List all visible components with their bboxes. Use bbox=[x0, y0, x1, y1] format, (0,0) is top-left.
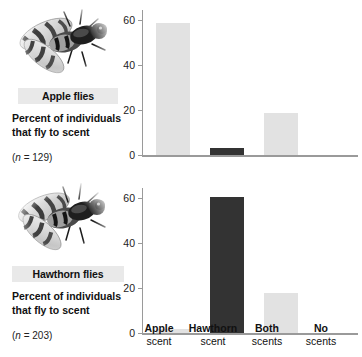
plot-area-hawthorn: 0 20 40 60 bbox=[142, 188, 358, 334]
hawthorn-fly-photo bbox=[10, 182, 114, 262]
bar-hawthorn-scent bbox=[210, 197, 244, 333]
x-axis-line-apple bbox=[142, 155, 358, 157]
y-tick-label-60-hawthorn: 60 bbox=[123, 192, 135, 204]
sample-size-hawthorn: (n = 203) bbox=[12, 330, 52, 341]
apple-fly-photo bbox=[10, 4, 114, 84]
y-tick-label-60-apple: 60 bbox=[123, 14, 135, 26]
y-tick-label-20-apple: 20 bbox=[123, 104, 135, 116]
y-axis-line-hawthorn bbox=[142, 188, 143, 334]
species-label-hawthorn: Hawthorn flies bbox=[12, 266, 124, 282]
y-tick-label-20-hawthorn: 20 bbox=[123, 282, 135, 294]
x-label-line1: No bbox=[286, 322, 356, 335]
species-label-apple: Apple flies bbox=[18, 88, 118, 104]
sample-size-value: = 203) bbox=[21, 330, 52, 341]
plot-area-apple: 0 20 40 60 bbox=[142, 10, 358, 156]
y-axis-title-apple: Percent of individuals that fly to scent bbox=[12, 112, 124, 139]
y-axis-title-hawthorn: Percent of individuals that fly to scent bbox=[12, 290, 124, 317]
bar-apple-scent bbox=[156, 23, 190, 155]
y-axis-line-apple bbox=[142, 10, 143, 156]
sample-size-apple: (n = 129) bbox=[12, 152, 52, 163]
plot-apple-flies: 0 20 40 60 bbox=[128, 0, 362, 178]
bar-both-scents bbox=[264, 113, 298, 155]
caption-column-hawthorn: Hawthorn flies Percent of individuals th… bbox=[4, 178, 122, 356]
sample-size-value: = 129) bbox=[21, 152, 52, 163]
y-tick-label-40-apple: 40 bbox=[123, 59, 135, 71]
y-tick-label-0-apple: 0 bbox=[129, 149, 135, 161]
panel-apple-flies: Apple flies Percent of individuals that … bbox=[0, 0, 362, 178]
x-label-no-scents: No scents bbox=[286, 322, 356, 347]
y-tick-label-40-hawthorn: 40 bbox=[123, 237, 135, 249]
x-label-line2: scents bbox=[286, 335, 356, 348]
x-axis-category-labels: Apple scent Hawthorn scent Both scents N… bbox=[128, 322, 362, 357]
caption-column-apple: Apple flies Percent of individuals that … bbox=[4, 0, 122, 178]
bar-hawthorn-scent bbox=[210, 148, 244, 155]
